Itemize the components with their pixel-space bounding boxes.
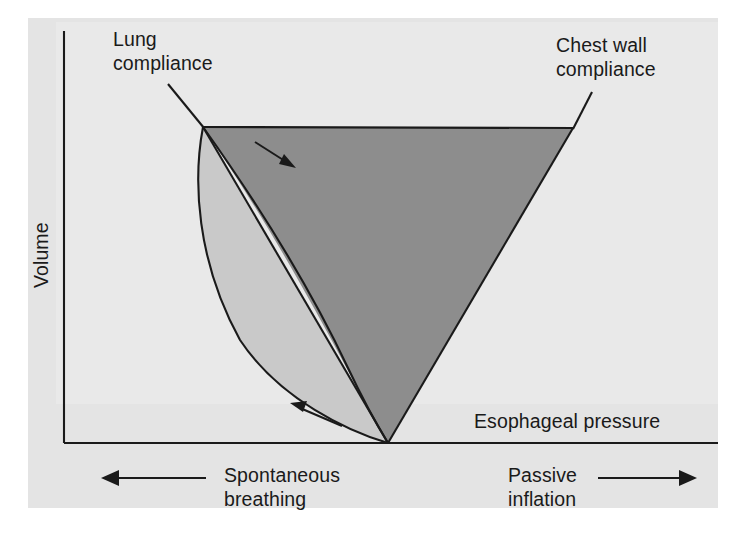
spontaneous-breathing-label-line2: breathing [224,488,306,512]
lung-compliance-callout-line1: Lung [113,28,157,52]
passive-inflation-label-line1: Passive [508,464,577,488]
spontaneous-breathing-label-line1: Spontaneous [224,464,340,488]
compliance-figure: Volume Esophageal pressure Lung complian… [0,0,746,536]
x-axis-label: Esophageal pressure [474,410,660,434]
chest-wall-callout-line2: compliance [556,58,656,82]
total-capacity-top-edge [203,127,573,128]
lung-compliance-callout-line2: compliance [113,52,213,76]
chest-wall-callout-line1: Chest wall [556,34,647,58]
passive-inflation-label-line2: inflation [508,488,576,512]
y-axis-label: Volume [30,222,54,288]
